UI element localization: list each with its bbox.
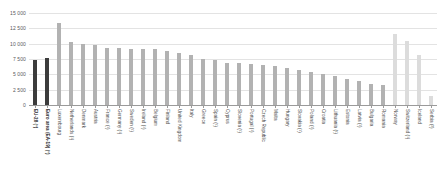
bar <box>57 23 61 105</box>
x-axis-category-label: Sweden (¹) <box>129 109 134 132</box>
x-label-slot: Spain (¹) <box>209 108 221 172</box>
bar <box>33 60 37 105</box>
x-axis-category-label: Finland <box>165 109 170 124</box>
x-label-slot: Cyprus <box>221 108 233 172</box>
x-label-slot: Sweden (¹) <box>125 108 137 172</box>
x-axis-category-label: Lithuania (¹) <box>333 109 338 134</box>
x-label-slot: Estonia <box>341 108 353 172</box>
x-label-slot: Latvia (¹) <box>353 108 365 172</box>
bar-slot <box>161 13 173 105</box>
x-label-slot: Belgium <box>149 108 161 172</box>
bar-slot <box>209 13 221 105</box>
bar-series <box>29 13 437 105</box>
bar <box>393 34 397 105</box>
bar <box>429 96 433 105</box>
x-label-slot: Croatia <box>317 108 329 172</box>
bar <box>129 49 133 105</box>
x-axis-category-label: Slovakia (¹) <box>297 109 302 133</box>
x-axis-category-label: Czech Republic <box>261 109 266 142</box>
bar-slot <box>41 13 53 105</box>
x-axis-category-label: Austria <box>93 109 98 124</box>
bar-slot <box>149 13 161 105</box>
bar <box>261 65 265 105</box>
x-axis-category-label: Hungary <box>285 109 290 127</box>
x-label-slot: Romania <box>377 108 389 172</box>
x-axis-category-label: Norway <box>393 109 398 125</box>
bar <box>69 42 73 105</box>
bar-slot <box>353 13 365 105</box>
bar-slot <box>77 13 89 105</box>
y-axis-tick-label: 15 000 <box>10 11 26 16</box>
bar-slot <box>317 13 329 105</box>
x-label-slot: Luxembourg <box>53 108 65 172</box>
bar-slot <box>377 13 389 105</box>
x-label-slot: Malta <box>269 108 281 172</box>
x-label-slot: Italy <box>185 108 197 172</box>
bar-slot <box>293 13 305 105</box>
bar-slot <box>389 13 401 105</box>
x-label-slot: Slovenia (¹) <box>233 108 245 172</box>
x-axis-category-label: Greece <box>201 109 206 124</box>
x-axis-category-label: Luxembourg <box>57 109 62 135</box>
y-axis-tick-label: 7 500 <box>13 57 26 62</box>
x-axis-category-label: Malta <box>273 109 278 120</box>
x-label-slot: Ireland (¹) <box>137 108 149 172</box>
x-label-slot: Portugal (¹) <box>245 108 257 172</box>
y-axis-tick-label: 10 000 <box>10 41 26 46</box>
x-label-slot: United Kingdom <box>173 108 185 172</box>
x-axis-category-label: Ireland (¹) <box>141 109 146 129</box>
x-label-slot: Euro area (EA-19) (¹) <box>41 108 53 172</box>
bar-slot <box>185 13 197 105</box>
x-label-slot: Hungary <box>281 108 293 172</box>
bar-slot <box>365 13 377 105</box>
y-axis-tick-label: 12 500 <box>10 26 26 31</box>
bar <box>45 58 49 105</box>
x-axis-category-label: Bulgaria <box>369 109 374 126</box>
bar <box>213 60 217 105</box>
bar-slot <box>173 13 185 105</box>
plot-area <box>29 13 437 105</box>
bar-slot <box>245 13 257 105</box>
bar-slot <box>257 13 269 105</box>
x-label-slot: Czech Republic <box>257 108 269 172</box>
bar <box>237 63 241 105</box>
bar-slot <box>329 13 341 105</box>
bar <box>201 59 205 105</box>
x-axis-category-label: Slovenia (¹) <box>237 109 242 133</box>
x-axis-category-label: Portugal (¹) <box>249 109 254 133</box>
x-label-slot: Finland <box>161 108 173 172</box>
bar <box>105 48 109 105</box>
y-axis-tick-label: 0 <box>23 103 26 108</box>
x-label-slot: Bulgaria <box>365 108 377 172</box>
x-label-slot: Norway <box>389 108 401 172</box>
bar-slot <box>89 13 101 105</box>
x-axis-category-label: EU-28 (¹) <box>33 109 38 128</box>
y-axis-tick-label: 5 000 <box>13 72 26 77</box>
bar <box>345 79 349 105</box>
x-label-slot: Netherlands (¹) <box>65 108 77 172</box>
x-label-slot: Iceland <box>413 108 425 172</box>
bar <box>369 84 373 105</box>
bar-slot <box>137 13 149 105</box>
x-axis-category-label: Iceland <box>417 109 422 124</box>
x-label-slot: Slovakia (¹) <box>293 108 305 172</box>
x-axis-category-label: Cyprus <box>225 109 230 124</box>
bar-slot <box>29 13 41 105</box>
bar-slot <box>425 13 437 105</box>
bar-slot <box>401 13 413 105</box>
bar-slot <box>341 13 353 105</box>
x-label-slot: Austria <box>89 108 101 172</box>
x-axis-category-label: Spain (¹) <box>213 109 218 127</box>
bar <box>225 63 229 105</box>
bar-slot <box>197 13 209 105</box>
y-axis-labels: 02 5005 0007 50010 00012 50015 000 <box>0 0 29 105</box>
bar-slot <box>413 13 425 105</box>
bar <box>189 55 193 105</box>
bar-slot <box>305 13 317 105</box>
bar <box>333 76 337 105</box>
x-axis-category-label: Latvia (¹) <box>357 109 362 128</box>
bar <box>381 85 385 105</box>
bar <box>165 51 169 105</box>
bar <box>141 49 145 105</box>
x-label-slot: Poland (¹) <box>305 108 317 172</box>
